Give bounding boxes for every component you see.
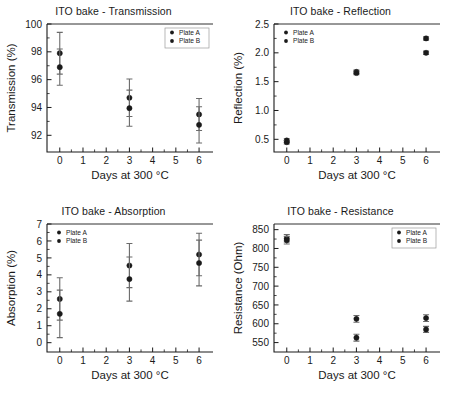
plot-area-transmission: 929496981000123456Days at 300 °CTransmis… [0, 0, 227, 200]
y-tick-label: 800 [252, 243, 269, 254]
x-tick-label: 6 [196, 155, 202, 166]
y-tick-label: 1.0 [255, 105, 269, 116]
data-point [57, 311, 62, 316]
y-tick-label: 750 [252, 262, 269, 273]
data-point [423, 36, 428, 41]
y-tick-label: 7 [36, 219, 42, 230]
data-point [354, 335, 359, 340]
data-point [127, 276, 132, 281]
y-tick-label: 98 [31, 46, 43, 57]
x-tick-label: 0 [284, 155, 290, 166]
y-axis-label: Reflection (%) [232, 52, 244, 124]
series-plate-b [284, 50, 429, 145]
legend-marker [170, 31, 174, 35]
series-plate-b [57, 49, 202, 143]
panel-resistance: ITO bake - Resistance 550600650700750800… [227, 200, 454, 400]
x-tick-label: 1 [307, 355, 313, 366]
y-tick-label: 600 [252, 318, 269, 329]
chart-svg-resistance: 5506006507007508008500123456Days at 300 … [227, 200, 454, 400]
legend-label: Plate A [179, 29, 200, 36]
legend-marker [57, 231, 61, 235]
y-axis-label: Transmission (%) [5, 43, 17, 132]
data-point [284, 238, 289, 243]
data-point [423, 50, 428, 55]
x-axis-label: Days at 300 °C [318, 369, 395, 381]
x-tick-label: 5 [173, 355, 179, 366]
x-axis-label: Days at 300 °C [91, 369, 168, 381]
x-tick-label: 6 [423, 155, 429, 166]
x-tick-label: 4 [377, 355, 383, 366]
chart-svg-transmission: 929496981000123456Days at 300 °CTransmis… [0, 0, 227, 200]
data-point [354, 316, 359, 321]
legend: Plate APlate B [165, 28, 209, 48]
legend-marker [284, 39, 288, 43]
chart-svg-absorption: 012345670123456Days at 300 °CAbsorption … [0, 200, 227, 400]
x-axis-label: Days at 300 °C [318, 169, 395, 181]
x-tick-label: 0 [284, 355, 290, 366]
x-tick-label: 3 [354, 155, 360, 166]
x-tick-label: 5 [173, 155, 179, 166]
legend-marker [57, 239, 61, 243]
legend-label: Plate A [66, 229, 87, 236]
y-axis-label: Absorption (%) [5, 250, 17, 326]
x-tick-label: 2 [330, 355, 336, 366]
y-tick-label: 5 [36, 253, 42, 264]
x-tick-label: 1 [80, 155, 86, 166]
y-tick-label: 94 [31, 102, 43, 113]
x-tick-label: 1 [80, 355, 86, 366]
legend-marker [397, 239, 401, 243]
plot-area-resistance: 5506006507007508008500123456Days at 300 … [227, 200, 454, 400]
data-point [196, 260, 201, 265]
y-tick-label: 3 [36, 286, 42, 297]
data-point [57, 65, 62, 70]
y-tick-label: 650 [252, 300, 269, 311]
data-point [423, 316, 428, 321]
x-tick-label: 1 [307, 155, 313, 166]
x-tick-label: 3 [127, 155, 133, 166]
x-tick-label: 3 [127, 355, 133, 366]
plot-area-reflection: 0.51.01.52.02.50123456Days at 300 °CRefl… [227, 0, 454, 200]
legend-label: Plate B [179, 37, 201, 44]
y-tick-label: 2.5 [255, 19, 269, 30]
data-point [196, 122, 201, 127]
x-tick-label: 0 [57, 355, 63, 366]
y-tick-label: 850 [252, 224, 269, 235]
series-plate-b [284, 236, 429, 341]
x-tick-label: 0 [57, 155, 63, 166]
series-plate-a [284, 36, 429, 143]
data-point [284, 140, 289, 145]
figure-canvas: ITO bake - Transmission 9294969810001234… [0, 0, 454, 400]
legend-label: Plate A [293, 29, 314, 36]
x-tick-label: 5 [400, 355, 406, 366]
y-tick-label: 4 [36, 269, 42, 280]
y-tick-label: 0.5 [255, 134, 269, 145]
y-tick-label: 1.5 [255, 76, 269, 87]
y-tick-label: 96 [31, 74, 43, 85]
x-tick-label: 6 [196, 355, 202, 366]
panel-reflection: ITO bake - Reflection 0.51.01.52.02.5012… [227, 0, 454, 200]
x-tick-label: 2 [103, 355, 109, 366]
y-tick-label: 92 [31, 130, 43, 141]
y-tick-label: 2 [36, 303, 42, 314]
data-point [423, 327, 428, 332]
plot-area-absorption: 012345670123456Days at 300 °CAbsorption … [0, 200, 227, 400]
data-point [127, 106, 132, 111]
y-tick-label: 100 [25, 19, 42, 30]
legend-label: Plate A [406, 229, 427, 236]
panel-transmission: ITO bake - Transmission 9294969810001234… [0, 0, 227, 200]
y-tick-label: 0 [36, 337, 42, 348]
x-tick-label: 2 [103, 155, 109, 166]
x-tick-label: 2 [330, 155, 336, 166]
x-tick-label: 4 [377, 155, 383, 166]
y-tick-label: 1 [36, 320, 42, 331]
x-tick-label: 3 [354, 355, 360, 366]
x-tick-label: 4 [150, 155, 156, 166]
y-tick-label: 2.0 [255, 47, 269, 58]
legend-label: Plate B [66, 237, 88, 244]
legend-label: Plate B [293, 37, 315, 44]
legend: Plate APlate B [392, 228, 436, 248]
y-axis-label: Resistance (Ohm) [232, 242, 244, 335]
y-tick-label: 6 [36, 236, 42, 247]
chart-svg-reflection: 0.51.01.52.02.50123456Days at 300 °CRefl… [227, 0, 454, 200]
data-point [354, 70, 359, 75]
